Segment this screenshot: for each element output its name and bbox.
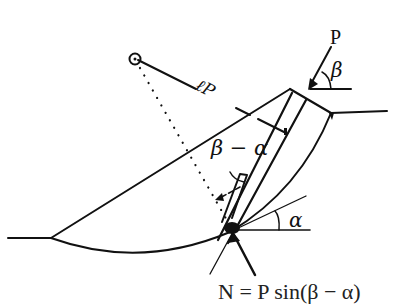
base-contact-blob bbox=[224, 222, 240, 234]
angle-label-alpha: α bbox=[289, 210, 303, 230]
lever-arm-line-c bbox=[258, 119, 284, 132]
normal-force-formula: N = P sin(β − α) bbox=[218, 281, 361, 303]
beta-angle-arc bbox=[322, 72, 331, 89]
alpha-angle-arc bbox=[275, 211, 279, 230]
lever-arm-line-b bbox=[236, 108, 250, 115]
crest-line bbox=[290, 89, 331, 113]
rotation-center-dot bbox=[134, 58, 137, 61]
force-label-P: P bbox=[330, 27, 341, 47]
angle-label-beta-minus-alpha: β − α bbox=[211, 138, 268, 159]
lever-arm-line-a bbox=[138, 60, 196, 89]
top-ground-line bbox=[331, 111, 387, 113]
dashed-arrowhead bbox=[215, 193, 224, 201]
slice-line-1 bbox=[218, 93, 292, 240]
lever-arm-tick bbox=[284, 128, 287, 135]
angle-label-beta: β bbox=[331, 60, 343, 80]
tangent-line-extension bbox=[210, 230, 234, 274]
